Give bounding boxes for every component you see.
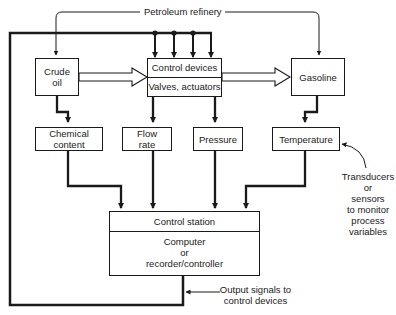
transducers-annotation: Transducers or sensors to monitor proces… xyxy=(340,171,396,237)
refinery-label: Petroleum refinery xyxy=(142,6,224,17)
control-devices-subtitle: Valves, actuators xyxy=(148,78,221,96)
control-station-box: Control station Computer or recorder/con… xyxy=(109,211,260,276)
pressure-box: Pressure xyxy=(193,127,243,151)
flow-rate-box: Flow rate xyxy=(122,127,172,151)
control-station-title: Control station xyxy=(110,212,259,232)
crude-oil-box: Crude oil xyxy=(35,58,79,96)
chemical-content-box: Chemical content xyxy=(35,127,103,151)
output-signals-annotation: Output signals to control devices xyxy=(218,284,293,306)
temperature-box: Temperature xyxy=(272,127,340,151)
control-devices-box: Control devices Valves, actuators xyxy=(147,58,222,97)
gasoline-box: Gasoline xyxy=(291,58,345,96)
control-devices-title: Control devices xyxy=(148,59,221,78)
